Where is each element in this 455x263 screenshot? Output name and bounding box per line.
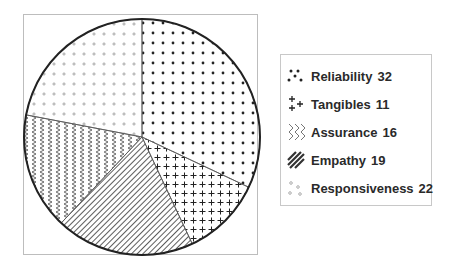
legend-value: 16 xyxy=(382,125,396,140)
legend-item-reliability: Reliability 32 xyxy=(281,62,431,90)
legend-value: 22 xyxy=(419,181,433,196)
plus-pattern-icon xyxy=(287,95,305,113)
legend-label: Assurance xyxy=(311,125,377,140)
legend-value: 19 xyxy=(371,153,385,168)
dots-pattern-icon xyxy=(287,67,305,85)
legend-value: 11 xyxy=(376,97,390,112)
legend-value: 32 xyxy=(377,69,391,84)
pie-slices xyxy=(24,19,260,255)
legend-label: Tangibles xyxy=(311,97,371,112)
zigzag-pattern-icon xyxy=(287,123,305,141)
legend-item-empathy: Empathy 19 xyxy=(281,146,431,174)
legend-item-tangibles: Tangibles 11 xyxy=(281,90,431,118)
diagonal-stripes-icon xyxy=(287,151,305,169)
legend-item-responsiveness: Responsiveness 22 xyxy=(281,174,431,202)
legend-item-assurance: Assurance 16 xyxy=(281,118,431,146)
legend-label: Empathy xyxy=(311,153,366,168)
legend-label: Responsiveness xyxy=(311,181,414,196)
legend-label: Reliability xyxy=(311,69,372,84)
small-circles-icon xyxy=(287,179,305,197)
legend: Reliability 32 Tangibles 11 Assurance 16… xyxy=(280,54,432,206)
